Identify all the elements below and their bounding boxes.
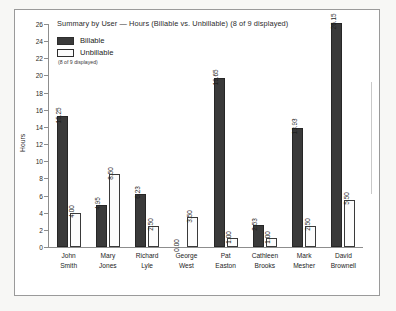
x-axis-categories: JohnSmithMaryJonesRichardLyleGeorgeWestP…	[49, 251, 363, 270]
y-tick-label: 22	[36, 55, 43, 62]
bar-group: 15.254.00	[49, 24, 88, 247]
bar-unbillable[interactable]: 5.50	[344, 200, 355, 247]
bar-value-label: 8.50	[108, 167, 114, 179]
bar-value-label: 2.50	[304, 218, 310, 230]
bar-pair: 4.958.50	[88, 24, 127, 247]
bar-group: 2.531.00	[245, 24, 284, 247]
x-category-label: GeorgeWest	[167, 251, 206, 270]
x-category-line: George	[167, 251, 206, 261]
y-tick-label: 20	[36, 72, 43, 79]
x-category-line: Smith	[49, 261, 88, 271]
x-category-label: JohnSmith	[49, 251, 88, 270]
bar-value-label: 4.95	[95, 197, 101, 209]
x-category-line: Lyle	[128, 261, 167, 271]
bar-group: 26.155.50	[324, 24, 363, 247]
bar-value-label: 13.93	[291, 119, 297, 135]
bar-billable[interactable]: 4.95	[96, 205, 107, 247]
x-category-line: Mary	[88, 251, 127, 261]
x-category-label: CathleenBrooks	[245, 251, 284, 270]
y-tick-mark	[44, 127, 48, 128]
bar-value-label: 5.50	[343, 193, 349, 205]
bar-billable[interactable]: 13.93	[292, 128, 303, 247]
bar-unbillable[interactable]: 1.00	[266, 238, 277, 247]
y-tick-mark	[44, 178, 48, 179]
x-category-line: Cathleen	[245, 251, 284, 261]
x-category-line: Jones	[88, 261, 127, 271]
y-tick-mark	[44, 161, 48, 162]
bar-unbillable[interactable]: 2.50	[305, 226, 316, 247]
bar-value-label: 19.65	[213, 69, 219, 85]
bar-billable[interactable]: 26.15	[331, 23, 342, 247]
bar-billable[interactable]: 19.65	[214, 78, 225, 247]
y-tick-label: 6	[39, 192, 43, 199]
bar-unbillable[interactable]: 8.50	[109, 174, 120, 247]
bar-group: 4.958.50	[88, 24, 127, 247]
x-category-line: Mark	[285, 251, 324, 261]
bar-pair: 6.232.50	[128, 24, 167, 247]
bar-value-label: 2.50	[147, 218, 153, 230]
y-tick-label: 26	[36, 21, 43, 28]
x-category-line: Pat	[206, 251, 245, 261]
y-tick-mark	[44, 93, 48, 94]
y-tick-label: 0	[39, 244, 43, 251]
y-tick-mark	[44, 230, 48, 231]
y-tick-label: 8	[39, 175, 43, 182]
x-category-line: Brownell	[324, 261, 363, 271]
y-tick-label: 16	[36, 106, 43, 113]
bar-value-label: 26.15	[330, 14, 336, 30]
y-tick-mark	[44, 144, 48, 145]
y-tick-label: 12	[36, 141, 43, 148]
x-category-label: MaryJones	[88, 251, 127, 270]
y-tick-label: 18	[36, 89, 43, 96]
bar-pair: 19.651.00	[206, 24, 245, 247]
bar-billable[interactable]: 6.23	[135, 194, 146, 247]
x-axis-line	[48, 247, 363, 248]
y-tick-mark	[44, 110, 48, 111]
x-category-line: Richard	[128, 251, 167, 261]
y-tick-mark	[44, 196, 48, 197]
x-category-label: MarkMesher	[285, 251, 324, 270]
bar-unbillable[interactable]: 2.50	[148, 226, 159, 247]
y-axis-label: Hours	[19, 134, 26, 152]
bar-value-label: 1.00	[226, 231, 232, 243]
x-category-line: John	[49, 251, 88, 261]
bar-value-label: 1.00	[265, 231, 271, 243]
bar-pair: 13.932.50	[285, 24, 324, 247]
x-category-label: PatEaston	[206, 251, 245, 270]
x-category-line: Mesher	[285, 261, 324, 271]
bar-pair: 26.155.50	[324, 24, 363, 247]
x-category-label: DavidBrownell	[324, 251, 363, 270]
x-category-label: RichardLyle	[128, 251, 167, 270]
bar-group: 6.232.50	[128, 24, 167, 247]
bar-value-label: 2.53	[252, 218, 258, 230]
y-tick-label: 4	[39, 209, 43, 216]
bar-pair: 2.531.00	[245, 24, 284, 247]
bar-value-label: 15.25	[56, 107, 62, 123]
y-tick-mark	[44, 213, 48, 214]
bar-unbillable[interactable]: 3.50	[187, 217, 198, 247]
bar-value-label: 6.23	[134, 186, 140, 198]
x-category-line: West	[167, 261, 206, 271]
bar-pair: 15.254.00	[49, 24, 88, 247]
x-category-line: Easton	[206, 261, 245, 271]
x-category-line: Brooks	[245, 261, 284, 271]
y-tick-mark	[44, 75, 48, 76]
y-tick-mark	[44, 58, 48, 59]
bar-value-label: 4.00	[69, 205, 75, 217]
bar-pair: 0.003.50	[167, 24, 206, 247]
bar-group: 0.003.50	[167, 24, 206, 247]
y-tick-label: 14	[36, 123, 43, 130]
y-tick-mark	[44, 24, 48, 25]
plot-area: 02468101214161820222426 15.254.004.958.5…	[48, 24, 363, 248]
bar-billable[interactable]: 15.25	[57, 116, 68, 247]
bar-group: 19.651.00	[206, 24, 245, 247]
bar-value-label: 3.50	[186, 210, 192, 222]
x-category-line: David	[324, 251, 363, 261]
y-tick-label: 2	[39, 226, 43, 233]
y-tick-label: 10	[36, 158, 43, 165]
bar-unbillable[interactable]: 1.00	[227, 238, 238, 247]
bar-unbillable[interactable]: 4.00	[70, 213, 81, 247]
bar-group: 13.932.50	[285, 24, 324, 247]
y-tick-mark	[44, 247, 48, 248]
bar-billable[interactable]: 2.53	[253, 225, 264, 247]
